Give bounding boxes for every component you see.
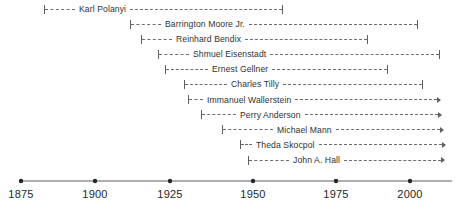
bar-trail-dash bbox=[319, 144, 442, 145]
timeline-bar-label: Theda Skocpol bbox=[252, 141, 319, 150]
timeline-bar-label: Ernest Gellner bbox=[208, 65, 272, 74]
timeline-row: Karl Polanyi bbox=[0, 2, 460, 17]
timeline-row: John A. Hall bbox=[0, 153, 460, 168]
timeline-row: Immanuel Wallerstein bbox=[0, 92, 460, 107]
timeline-figure: Karl PolanyiBarrington Moore Jr.Reinhard… bbox=[0, 0, 460, 211]
timeline-bar-label: Michael Mann bbox=[273, 126, 336, 135]
bar-end-cap-icon bbox=[387, 65, 388, 74]
timeline-bar-label: Shmuel Eisenstadt bbox=[189, 50, 270, 59]
axis-tick-label: 1875 bbox=[8, 189, 33, 200]
axis-tick-label: 2000 bbox=[397, 189, 422, 200]
bar-trail-dash bbox=[130, 9, 282, 10]
timeline-row: Michael Mann bbox=[0, 122, 460, 137]
axis-tick-dot bbox=[408, 179, 412, 183]
timeline-bar-label: John A. Hall bbox=[289, 156, 344, 165]
timeline-bar[interactable]: Michael Mann bbox=[222, 122, 444, 137]
bar-trail-dash bbox=[245, 39, 367, 40]
axis-tick-label: 1900 bbox=[82, 189, 107, 200]
timeline-bar[interactable]: Reinhard Bendix bbox=[141, 32, 368, 47]
timeline-bar[interactable]: Karl Polanyi bbox=[44, 2, 283, 17]
bar-trail-dash bbox=[272, 69, 387, 70]
bar-lead-dash bbox=[166, 69, 208, 70]
axis-tick-marks bbox=[19, 179, 412, 183]
axis-tick-dot bbox=[19, 179, 23, 183]
bar-end-arrow-icon bbox=[438, 112, 442, 118]
bar-lead-dash bbox=[189, 99, 203, 100]
timeline-bar-label: Immanuel Wallerstein bbox=[203, 96, 295, 105]
bar-end-cap-icon bbox=[417, 20, 418, 29]
axis-tick-label: 1925 bbox=[157, 189, 182, 200]
bar-end-arrow-icon bbox=[440, 127, 444, 133]
timeline-bar[interactable]: Theda Skocpol bbox=[240, 137, 446, 152]
bar-end-arrow-icon bbox=[442, 142, 446, 148]
timeline-bar[interactable]: Charles Tilly bbox=[184, 77, 423, 92]
bar-lead-dash bbox=[131, 24, 161, 25]
timeline-row: Reinhard Bendix bbox=[0, 32, 460, 47]
timeline-row: Perry Anderson bbox=[0, 107, 460, 122]
timeline-row: Charles Tilly bbox=[0, 77, 460, 92]
axis-tick-dot bbox=[251, 179, 255, 183]
timeline-bar[interactable]: Barrington Moore Jr. bbox=[130, 17, 418, 32]
timeline-bar[interactable]: John A. Hall bbox=[248, 153, 445, 168]
timeline-bar[interactable]: Immanuel Wallerstein bbox=[188, 92, 441, 107]
bar-lead-dash bbox=[223, 129, 273, 130]
bar-trail-dash bbox=[283, 84, 422, 85]
bar-end-cap-icon bbox=[422, 80, 423, 89]
timeline-row: Theda Skocpol bbox=[0, 137, 460, 152]
timeline-bar[interactable]: Shmuel Eisenstadt bbox=[158, 47, 440, 62]
axis-tick-dot bbox=[334, 179, 338, 183]
bar-lead-dash bbox=[142, 39, 172, 40]
timeline-bar-label: Karl Polanyi bbox=[75, 5, 130, 14]
axis-tick-label: 1950 bbox=[240, 189, 265, 200]
bar-end-cap-icon bbox=[367, 35, 368, 44]
bar-end-arrow-icon bbox=[437, 97, 441, 103]
bar-end-cap-icon bbox=[439, 50, 440, 59]
bar-trail-dash bbox=[344, 160, 441, 161]
bar-lead-dash bbox=[241, 144, 252, 145]
bar-end-arrow-icon bbox=[441, 157, 445, 163]
bar-trail-dash bbox=[305, 114, 438, 115]
axis-tick-label: 1975 bbox=[323, 189, 348, 200]
timeline-bar[interactable]: Perry Anderson bbox=[201, 107, 442, 122]
timeline-bar-label: Charles Tilly bbox=[227, 80, 283, 89]
bar-trail-dash bbox=[295, 99, 437, 100]
bar-trail-dash bbox=[270, 54, 439, 55]
timeline-bar[interactable]: Ernest Gellner bbox=[165, 62, 388, 77]
bar-trail-dash bbox=[249, 24, 417, 25]
bar-lead-dash bbox=[185, 84, 227, 85]
axis-tick-dot bbox=[93, 179, 97, 183]
bar-lead-dash bbox=[249, 160, 289, 161]
timeline-row: Shmuel Eisenstadt bbox=[0, 47, 460, 62]
bar-lead-dash bbox=[45, 9, 75, 10]
timeline-bar-label: Perry Anderson bbox=[236, 111, 305, 120]
timeline-bar-label: Reinhard Bendix bbox=[172, 35, 245, 44]
bar-lead-dash bbox=[202, 114, 236, 115]
axis-tick-dot bbox=[168, 179, 172, 183]
timeline-bar-label: Barrington Moore Jr. bbox=[161, 20, 249, 29]
bar-lead-dash bbox=[159, 54, 189, 55]
bar-end-cap-icon bbox=[282, 5, 283, 14]
timeline-row: Barrington Moore Jr. bbox=[0, 17, 460, 32]
timeline-row: Ernest Gellner bbox=[0, 62, 460, 77]
bar-trail-dash bbox=[336, 129, 440, 130]
